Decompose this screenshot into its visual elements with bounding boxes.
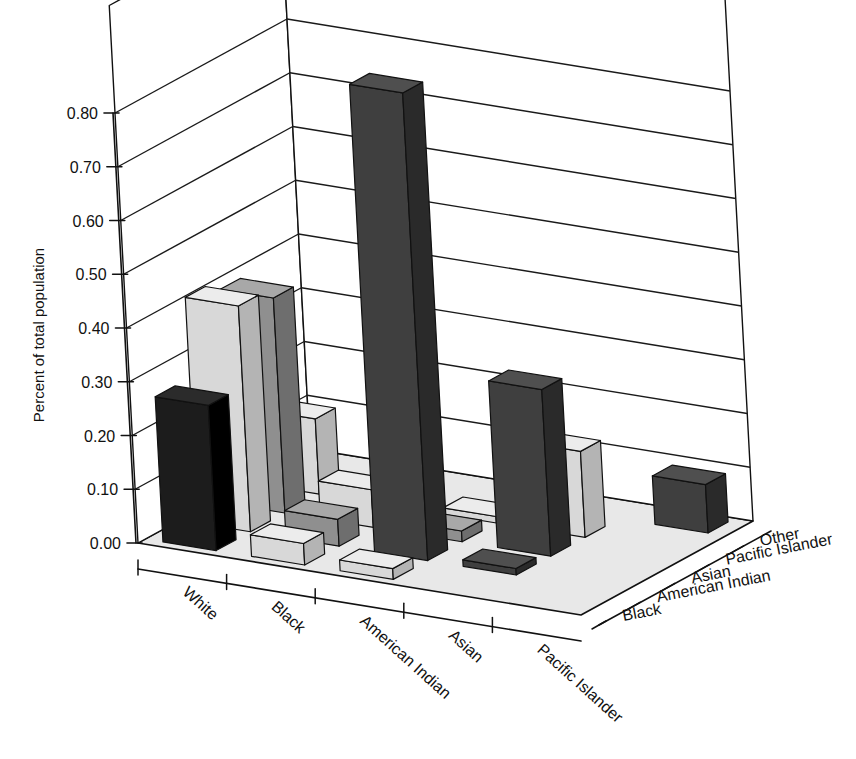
bar-pacific-islander-other[interactable] — [652, 465, 728, 533]
bar-white-black[interactable] — [155, 386, 236, 551]
bar-side-face — [581, 440, 606, 537]
y-tick-label: 0.50 — [75, 266, 106, 283]
x-tick-label: American Indian — [357, 612, 454, 702]
chart-canvas: 0.000.100.200.300.400.500.600.700.80Whit… — [0, 0, 856, 759]
bar-front-face — [489, 381, 551, 556]
y-tick-label: 0.60 — [73, 213, 104, 230]
z-tick-label: Black — [621, 600, 664, 624]
y-tick-label: 0.10 — [87, 481, 118, 498]
bar-front-face — [155, 397, 216, 551]
x-tick-label: Asian — [446, 626, 487, 665]
y-tick-label: 0.70 — [70, 159, 101, 176]
x-tick-label: Pacific Islander — [534, 641, 626, 727]
z-axis-tick — [592, 621, 606, 629]
y-tick-label: 0.30 — [81, 374, 112, 391]
y-axis-title: Percent of total population — [30, 248, 47, 422]
y-tick-label: 0.00 — [90, 535, 121, 552]
bar-asian-asian[interactable] — [489, 370, 571, 556]
y-tick-label: 0.20 — [84, 428, 115, 445]
y-tick-label: 0.80 — [67, 105, 98, 122]
bar-chart-3d: 0.000.100.200.300.400.500.600.700.80Whit… — [0, 0, 856, 759]
y-tick-label: 0.40 — [78, 320, 109, 337]
x-tick-label: White — [180, 583, 222, 623]
bar-front-face — [652, 476, 708, 533]
x-tick-label: Black — [268, 597, 309, 636]
